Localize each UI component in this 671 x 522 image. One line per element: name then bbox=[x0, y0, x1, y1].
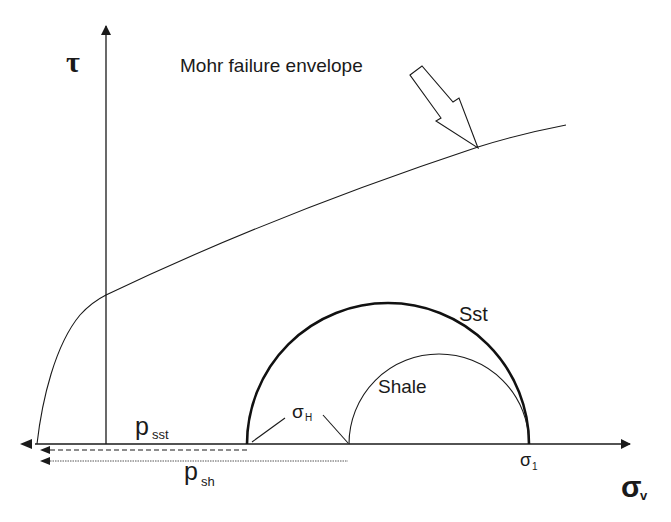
sigma-h-label: σ bbox=[292, 401, 304, 422]
failure-envelope bbox=[37, 125, 566, 444]
sigma-h-leader-shale bbox=[323, 415, 348, 443]
sigma-h-subscript: H bbox=[305, 412, 312, 423]
p-sst-label: p bbox=[135, 412, 149, 440]
p-sst-subscript: sst bbox=[152, 427, 169, 442]
x-axis-left-arrow-icon bbox=[20, 439, 32, 449]
p-sst-arrow-icon bbox=[40, 446, 50, 454]
p-sh-label: p bbox=[184, 457, 198, 485]
p-sh-subscript: sh bbox=[201, 474, 215, 489]
y-axis-label: τ bbox=[66, 45, 80, 78]
sigma-1-subscript: 1 bbox=[532, 461, 538, 472]
p-sh-arrow-icon bbox=[40, 457, 50, 465]
x-axis-label: σ bbox=[621, 470, 642, 503]
x-axis-label-subscript: v bbox=[640, 488, 648, 503]
envelope-pointer-arrow-icon bbox=[410, 66, 478, 148]
shale-circle bbox=[349, 354, 529, 444]
mohr-diagram: τ Mohr failure envelope Sst Shale σ H σ … bbox=[0, 0, 671, 522]
envelope-label: Mohr failure envelope bbox=[180, 55, 363, 76]
sst-circle-label: Sst bbox=[459, 303, 488, 325]
sigma-h-leader-sst bbox=[252, 418, 285, 442]
sigma-1-label: σ bbox=[520, 450, 531, 470]
shale-circle-label: Shale bbox=[378, 376, 427, 397]
